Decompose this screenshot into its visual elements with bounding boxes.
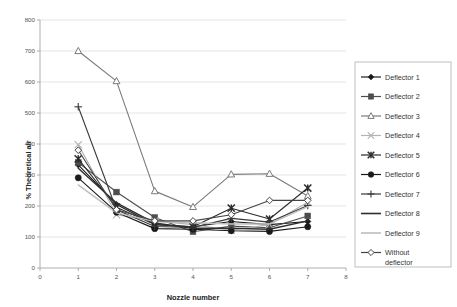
data-point-marker xyxy=(75,155,82,162)
x-axis-tick-labels: 012345678 xyxy=(38,268,348,280)
series-line xyxy=(78,159,308,227)
y-tick-label: 0 xyxy=(32,264,36,271)
legend-item-7[interactable]: Deflector 7 xyxy=(361,190,420,199)
series-3 xyxy=(75,47,311,209)
x-tick-label: 6 xyxy=(268,273,272,280)
legend-item-2[interactable]: Deflector 2 xyxy=(361,92,420,101)
data-point-marker xyxy=(75,47,82,53)
x-tick-label: 0 xyxy=(38,273,42,280)
y-tick-label: 500 xyxy=(25,109,36,116)
legend-label: Deflector 4 xyxy=(385,131,420,140)
legend-item-4[interactable]: Deflector 4 xyxy=(361,131,420,140)
data-point-marker xyxy=(114,189,120,195)
data-point-marker xyxy=(151,188,158,194)
data-point-marker xyxy=(305,224,311,230)
x-tick-label: 4 xyxy=(191,273,195,280)
legend-label: Deflector 3 xyxy=(385,112,420,121)
y-tick-label: 200 xyxy=(25,202,36,209)
series-10 xyxy=(75,147,311,224)
chart-container: 0100200300400500600700800 012345678 % Th… xyxy=(0,0,457,307)
x-tick-label: 3 xyxy=(153,273,157,280)
legend-label-line2: deflector xyxy=(385,258,413,267)
y-axis-title: % Theoretical air xyxy=(24,140,33,199)
legend-item-8[interactable]: Deflector 8 xyxy=(361,209,420,218)
legend-item-10[interactable]: Withoutdeflector xyxy=(361,248,413,267)
y-tick-label: 600 xyxy=(25,78,36,85)
x-axis-title: Nozzle number xyxy=(167,293,220,302)
series-7 xyxy=(74,103,311,231)
data-point-marker xyxy=(368,249,374,255)
x-tick-label: 1 xyxy=(77,273,81,280)
data-point-marker xyxy=(266,197,273,204)
data-series-layer xyxy=(74,47,311,234)
x-tick-label: 2 xyxy=(115,273,119,280)
x-tick-label: 7 xyxy=(306,273,310,280)
data-point-marker xyxy=(368,74,374,80)
data-point-marker xyxy=(74,103,82,111)
legend-label: Deflector 9 xyxy=(385,229,420,238)
legend-item-3[interactable]: Deflector 3 xyxy=(361,112,420,121)
y-tick-label: 800 xyxy=(25,16,36,23)
y-tick-label: 700 xyxy=(25,47,36,54)
legend-label: Deflector 8 xyxy=(385,209,420,218)
data-point-marker xyxy=(368,191,375,198)
legend-label: Deflector 6 xyxy=(385,170,420,179)
line-chart: 0100200300400500600700800 012345678 % Th… xyxy=(0,0,457,307)
legend-item-5[interactable]: Deflector 5 xyxy=(361,151,420,160)
data-point-marker xyxy=(304,184,311,191)
legend-label: Deflector 2 xyxy=(385,92,420,101)
legend-label: Deflector 1 xyxy=(385,73,420,82)
y-tick-label: 100 xyxy=(25,233,36,240)
data-point-marker xyxy=(113,77,120,83)
data-point-marker xyxy=(75,175,81,181)
data-point-marker xyxy=(368,172,374,178)
x-tick-label: 5 xyxy=(230,273,234,280)
legend-item-9[interactable]: Deflector 9 xyxy=(361,229,420,238)
legend-label: Deflector 5 xyxy=(385,151,420,160)
chart-legend: Deflector 1Deflector 2Deflector 3Deflect… xyxy=(355,62,451,267)
x-tick-label: 8 xyxy=(344,273,348,280)
legend-label: Deflector 7 xyxy=(385,190,420,199)
legend-item-6[interactable]: Deflector 6 xyxy=(361,170,420,179)
series-line xyxy=(78,51,308,207)
legend-label: Without xyxy=(385,248,409,257)
data-point-marker xyxy=(368,94,373,99)
data-point-marker xyxy=(305,213,311,219)
data-point-marker xyxy=(228,211,235,218)
legend-item-1[interactable]: Deflector 1 xyxy=(361,73,420,82)
